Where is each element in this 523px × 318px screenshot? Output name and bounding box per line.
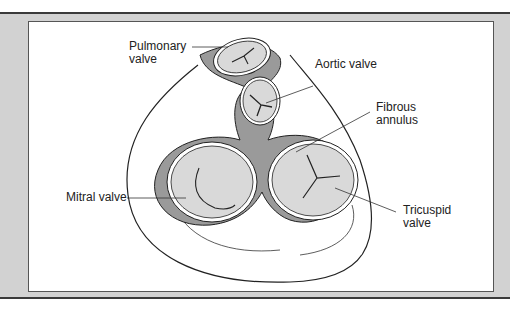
tricuspid-valve (272, 144, 354, 216)
label-mitral-valve: Mitral valve (66, 191, 127, 204)
label-tricuspid-valve: Tricuspid valve (403, 204, 451, 230)
label-pulmonary-valve: Pulmonary valve (129, 40, 186, 66)
label-aortic-valve: Aortic valve (315, 58, 377, 71)
heart-valves-illustration (0, 0, 523, 318)
label-fibrous-annulus: Fibrous annulus (376, 101, 418, 127)
